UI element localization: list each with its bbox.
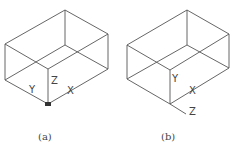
origin-marker-icon: [45, 102, 51, 106]
axis-label-y: Y: [28, 84, 36, 95]
figure-b: Y X Z (b): [127, 10, 229, 142]
box-wireframe-a: [5, 10, 108, 104]
axis-label-x: X: [189, 85, 196, 96]
z-axis-line: [170, 104, 186, 114]
diagram-canvas: Z Y X (a) Y X Z (b): [0, 0, 232, 151]
caption-b: (b): [161, 131, 175, 142]
axis-label-y: Y: [171, 73, 179, 84]
axis-label-x: X: [67, 85, 74, 96]
axis-label-z: Z: [51, 75, 58, 86]
caption-a: (a): [38, 131, 52, 142]
axis-label-z: Z: [189, 106, 196, 117]
box-wireframe-b: [127, 10, 229, 104]
figure-a: Z Y X (a): [5, 10, 108, 142]
